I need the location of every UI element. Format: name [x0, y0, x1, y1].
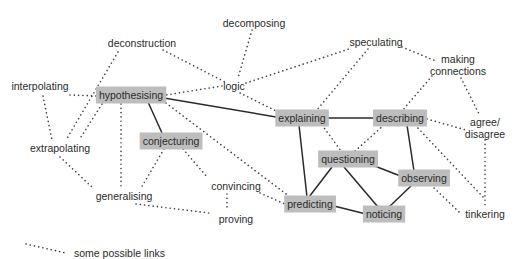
node-label: proving: [219, 213, 254, 225]
node-label: tinkering: [465, 208, 505, 220]
node-explaining: explaining: [275, 110, 328, 127]
solid-link-explaining-predicting: [299, 125, 307, 197]
dotted-link-hypothesising-extrapolating: [79, 104, 102, 140]
node-label: decomposing: [223, 17, 286, 29]
node-extrapolating: extrapolating: [30, 142, 90, 154]
node-logic: logic: [223, 80, 245, 92]
node-generalising: generalising: [96, 190, 153, 202]
node-hypothesising: hypothesising: [96, 87, 166, 104]
dotted-link-logic-speculating: [246, 48, 352, 83]
node-describing: describing: [373, 110, 427, 127]
node-convincing: convincing: [211, 180, 261, 192]
node-conjecturing: conjecturing: [140, 133, 203, 150]
node-label: conjecturing: [143, 135, 200, 147]
dotted-link-speculating-making_connections: [402, 47, 436, 61]
node-noticing: noticing: [363, 206, 405, 223]
dotted-link-generalising-proving: [136, 204, 209, 213]
dotted-link-observing-tinkering: [431, 185, 460, 213]
node-label: observing: [401, 172, 447, 184]
node-deconstruction: deconstruction: [108, 37, 176, 49]
node-label: making: [441, 53, 475, 65]
dotted-link-describing-agree_disagree: [427, 119, 466, 130]
dotted-link-logic-hypothesising: [166, 86, 222, 95]
node-label: noticing: [366, 208, 402, 220]
node-decomposing: decomposing: [223, 17, 286, 29]
dotted-link-explaining-questioning: [322, 125, 341, 151]
solid-link-hypothesising-explaining: [164, 98, 276, 117]
dotted-link-making_connections-agree_disagree: [461, 78, 480, 116]
node-label: logic: [223, 80, 245, 92]
legend: some possible links: [26, 244, 165, 259]
node-interpolating: interpolating: [11, 80, 68, 92]
node-label: generalising: [96, 190, 153, 202]
node-label: extrapolating: [30, 142, 90, 154]
dotted-link-interpolating-hypothesising: [70, 95, 96, 96]
node-label: speculating: [349, 36, 402, 48]
node-label: convincing: [211, 180, 261, 192]
node-predicting: predicting: [284, 196, 336, 213]
dotted-link-making_connections-describing: [402, 76, 432, 111]
dotted-link-deconstruction-logic: [163, 50, 225, 82]
node-label: deconstruction: [108, 37, 176, 49]
dotted-link-logic-explaining: [240, 93, 280, 113]
solid-link-predicting-noticing: [334, 206, 366, 214]
node-agree-disagree: agree/disagree: [465, 116, 505, 140]
node-label: hypothesising: [99, 89, 163, 101]
node-speculating: speculating: [349, 36, 402, 48]
dotted-link-extrapolating-generalising: [60, 157, 93, 188]
solid-link-observing-noticing: [389, 185, 412, 207]
dotted-link-decomposing-logic: [238, 30, 252, 78]
node-label: predicting: [287, 198, 333, 210]
dotted-link-describing-questioning: [355, 125, 384, 151]
node-label: connections: [430, 65, 486, 77]
node-observing: observing: [398, 170, 450, 187]
legend-dotted-line-icon: [26, 244, 66, 253]
node-proving: proving: [219, 213, 254, 225]
legend-label: some possible links: [74, 247, 165, 259]
dotted-link-speculating-explaining: [316, 49, 368, 111]
node-tinkering: tinkering: [465, 208, 505, 220]
solid-link-hypothesising-conjecturing: [148, 102, 162, 133]
node-label: agree/: [470, 116, 500, 128]
node-questioning: questioning: [318, 151, 378, 168]
solid-link-questioning-predicting: [309, 167, 332, 197]
solid-link-questioning-noticing: [344, 167, 378, 207]
dotted-link-conjecturing-convincing: [183, 149, 208, 178]
solid-link-describing-observing: [407, 125, 414, 171]
node-label: questioning: [321, 153, 375, 165]
node-label: disagree: [465, 128, 505, 140]
nodes-layer: decomposingdeconstructionspeculatingmaki…: [11, 17, 505, 225]
node-making-connections: makingconnections: [430, 53, 486, 77]
dotted-link-conjecturing-generalising: [141, 149, 164, 188]
concept-map-diagram: decomposingdeconstructionspeculatingmaki…: [0, 0, 518, 259]
dotted-link-convincing-predicting: [260, 193, 285, 204]
node-label: interpolating: [11, 80, 68, 92]
node-label: explaining: [278, 112, 325, 124]
dotted-link-interpolating-extrapolating: [43, 96, 52, 140]
node-label: describing: [376, 112, 424, 124]
